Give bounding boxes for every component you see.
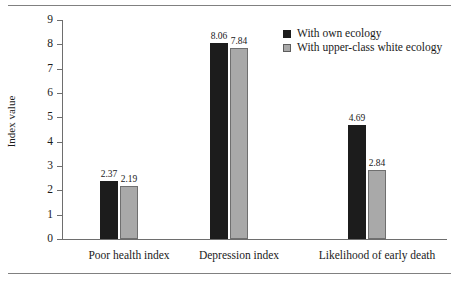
- y-tick-mark: [57, 20, 62, 21]
- chart-figure: Index value 9876543210 2.378.064.692.197…: [0, 0, 459, 285]
- y-tick-mark: [57, 142, 62, 143]
- plot-area: Index value 9876543210 2.378.064.692.197…: [0, 0, 459, 285]
- y-tick-label: 6: [13, 87, 53, 99]
- y-tick-label: 8: [13, 38, 53, 50]
- bar-1-series-0[interactable]: [210, 43, 228, 239]
- y-tick-label: 0: [13, 233, 53, 245]
- y-tick-mark: [57, 190, 62, 191]
- bar-value-label: 4.69: [337, 114, 377, 124]
- bar-0-series-1[interactable]: [120, 186, 138, 239]
- y-tick-label: 3: [13, 160, 53, 172]
- y-tick-mark: [57, 44, 62, 45]
- legend-label-upper-class-white-ecology: With upper-class white ecology: [297, 41, 442, 54]
- bar-value-label: 2.19: [109, 175, 149, 185]
- y-axis-line: [62, 20, 63, 240]
- y-tick-mark: [57, 117, 62, 118]
- bar-1-series-1[interactable]: [230, 48, 248, 239]
- x-axis-line: [62, 239, 447, 240]
- y-tick-mark: [57, 93, 62, 94]
- y-tick-label: 9: [13, 14, 53, 26]
- y-tick-label: 5: [13, 111, 53, 123]
- y-tick-mark: [57, 239, 62, 240]
- bar-0-series-0[interactable]: [100, 181, 118, 239]
- legend-swatch-icon-own-ecology: [283, 30, 291, 38]
- y-tick-mark: [57, 69, 62, 70]
- y-tick-mark: [57, 215, 62, 216]
- bar-value-label: 7.84: [219, 37, 259, 47]
- category-label-2: Likelihood of early death: [297, 249, 457, 261]
- legend-label-own-ecology: With own ecology: [297, 27, 382, 40]
- y-tick-label: 4: [13, 136, 53, 148]
- y-tick-mark: [57, 166, 62, 167]
- y-tick-label: 1: [13, 209, 53, 221]
- y-tick-label: 2: [13, 184, 53, 196]
- bar-value-label: 2.84: [357, 159, 397, 169]
- bar-2-series-0[interactable]: [348, 125, 366, 239]
- bar-2-series-1[interactable]: [368, 170, 386, 239]
- y-tick-label: 7: [13, 63, 53, 75]
- category-label-1: Depression index: [159, 249, 319, 261]
- legend-swatch-icon-upper-class-white-ecology: [283, 44, 291, 52]
